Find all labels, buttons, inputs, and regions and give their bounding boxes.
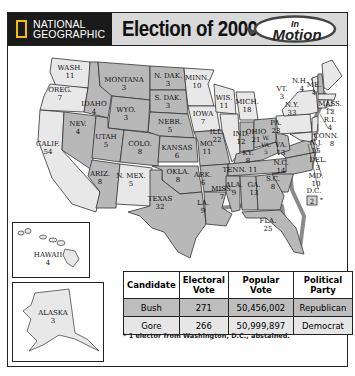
svg-text:4: 4 (92, 108, 97, 116)
svg-text:WYO.: WYO. (116, 106, 135, 114)
svg-text:8: 8 (138, 148, 142, 156)
header-candidate: Candidate (124, 272, 180, 299)
hawaii-map: HAWAII 4 (13, 223, 88, 276)
svg-text:5: 5 (129, 180, 133, 188)
svg-text:W.: W. (262, 134, 269, 141)
svg-text:6: 6 (201, 179, 206, 187)
svg-text:COLO.: COLO. (128, 140, 151, 148)
state-wyo (108, 96, 150, 132)
svg-text:N.J.: N.J. (310, 139, 322, 147)
svg-text:5: 5 (264, 148, 268, 155)
svg-text:N. DAK.: N. DAK. (154, 72, 182, 80)
svg-text:11: 11 (203, 148, 212, 156)
state-me (322, 60, 342, 90)
svg-text:5: 5 (168, 126, 172, 134)
svg-text:12: 12 (326, 108, 335, 116)
svg-text:6: 6 (175, 152, 180, 160)
svg-text:7: 7 (201, 118, 205, 126)
svg-text:MINN.: MINN. (185, 74, 209, 82)
svg-text:4: 4 (300, 85, 305, 93)
svg-text:15: 15 (312, 147, 321, 155)
svg-text:ALA.: ALA. (225, 181, 243, 189)
svg-text:R.I.: R.I. (324, 116, 337, 124)
svg-text:2: 2 (310, 198, 314, 206)
svg-text:WASH.: WASH. (57, 64, 82, 72)
svg-text:18: 18 (243, 106, 252, 114)
svg-text:N.Y.: N.Y. (285, 101, 299, 109)
svg-text:NEBR.: NEBR. (158, 118, 182, 126)
svg-text:8: 8 (176, 176, 180, 184)
svg-text:PA.: PA. (270, 119, 281, 127)
svg-text:TEXAS: TEXAS (148, 195, 173, 203)
svg-text:3: 3 (124, 114, 128, 122)
svg-text:11: 11 (220, 102, 229, 110)
svg-text:14: 14 (277, 167, 286, 175)
svg-text:13: 13 (250, 189, 259, 197)
svg-text:25: 25 (264, 225, 273, 233)
table-row: Bush 271 50,456,002 Republican (124, 299, 353, 317)
svg-text:IDAHO: IDAHO (81, 100, 107, 108)
header-popular: PopularVote (228, 272, 293, 299)
svg-text:D.C.: D.C. (307, 187, 322, 195)
svg-text:ARK.: ARK. (193, 171, 212, 179)
in-motion-badge: In Motion (241, 14, 339, 44)
svg-text:11: 11 (66, 72, 75, 80)
svg-text:9: 9 (201, 207, 205, 215)
svg-text:12: 12 (237, 138, 246, 146)
svg-text:32: 32 (156, 203, 165, 211)
svg-text:13: 13 (277, 149, 286, 157)
page-title: Election of 2000 (122, 16, 258, 42)
footnote: * 1 elector from Washington, D.C., absta… (123, 332, 290, 340)
svg-text:VT.: VT. (276, 85, 288, 93)
publisher-name: NATIONAL GEOGRAPHIC (33, 19, 105, 39)
party-cell: Republican (293, 299, 352, 317)
svg-text:DEL.: DEL. (309, 156, 327, 164)
svg-text:LA.: LA. (197, 199, 209, 207)
svg-text:OKLA.: OKLA. (167, 168, 190, 176)
svg-text:S.C.: S.C. (266, 175, 280, 183)
svg-text:HAWAII: HAWAII (34, 251, 63, 259)
svg-text:FLA.: FLA. (260, 217, 277, 225)
svg-text:S. DAK.: S. DAK. (154, 94, 181, 102)
svg-text:KANSAS: KANSAS (162, 144, 193, 152)
hawaii-inset: HAWAII 4 (12, 222, 90, 278)
results-table: Candidate ElectoralVote PopularVote Poli… (123, 271, 353, 335)
svg-text:33: 33 (288, 109, 297, 117)
svg-text:GA.: GA. (248, 181, 261, 189)
svg-text:MONTANA: MONTANA (104, 76, 144, 84)
svg-text:22: 22 (213, 136, 222, 144)
svg-text:10: 10 (193, 82, 202, 90)
svg-text:3: 3 (280, 93, 284, 101)
svg-text:MD.: MD. (309, 172, 324, 180)
svg-text:OREG.: OREG. (48, 86, 72, 94)
svg-text:3: 3 (51, 317, 55, 325)
svg-text:4: 4 (76, 128, 81, 136)
svg-text:8: 8 (271, 183, 275, 191)
svg-text:N.C.: N.C. (273, 159, 288, 167)
svg-text:3: 3 (122, 84, 126, 92)
publisher-logo: NATIONAL GEOGRAPHIC (8, 13, 112, 45)
header-bar: NATIONAL GEOGRAPHIC Election of 2000 In … (7, 12, 348, 46)
svg-text:MASS.: MASS. (318, 100, 342, 108)
electoral-cell: 271 (179, 299, 228, 317)
svg-text:5: 5 (104, 141, 108, 149)
svg-text:IOWA: IOWA (193, 110, 214, 118)
svg-text:TENN. 11: TENN. 11 (223, 166, 258, 174)
alaska-inset: ALASKA 3 (12, 282, 104, 362)
svg-text:WIS.: WIS. (216, 94, 233, 102)
svg-text:8: 8 (98, 178, 102, 186)
svg-text:ME.: ME. (307, 81, 322, 89)
alaska-map: ALASKA 3 (13, 283, 102, 360)
svg-text:MICH.: MICH. (235, 98, 259, 106)
svg-text:VA.: VA. (274, 141, 287, 149)
svg-text:UTAH: UTAH (95, 133, 116, 141)
candidate-cell: Bush (124, 299, 180, 317)
svg-text:4: 4 (328, 124, 333, 132)
svg-text:VA.: VA. (260, 141, 271, 148)
svg-text:7: 7 (220, 193, 224, 201)
table-header-row: Candidate ElectoralVote PopularVote Poli… (124, 272, 353, 299)
state-nmex (116, 164, 152, 206)
svg-text:3: 3 (166, 80, 170, 88)
svg-text:8: 8 (330, 140, 334, 148)
svg-text:KY.: KY. (243, 149, 254, 157)
